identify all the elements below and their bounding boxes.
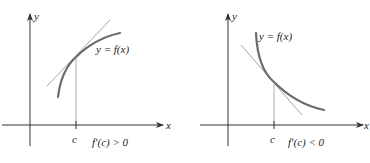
x-axis-label: x (363, 119, 369, 131)
x-axis-label: x (165, 119, 171, 131)
condition-label: f′(c) > 0 (92, 136, 129, 149)
derivative-sign-diagram: x y c y = f(x) f′(c) > 0 x y c y = f(x) … (0, 0, 370, 163)
curve-label: y = f(x) (258, 30, 292, 43)
panel-increasing: x y c y = f(x) f′(c) > 0 (2, 10, 171, 149)
y-axis-label: y (231, 10, 237, 22)
condition-label: f′(c) < 0 (288, 136, 325, 149)
curve-label: y = f(x) (95, 43, 129, 56)
y-axis-label: y (33, 10, 39, 22)
panel-decreasing: x y c y = f(x) f′(c) < 0 (200, 10, 369, 149)
point-c-label: c (72, 133, 77, 145)
curve (256, 33, 324, 110)
point-c-label: c (270, 133, 275, 145)
